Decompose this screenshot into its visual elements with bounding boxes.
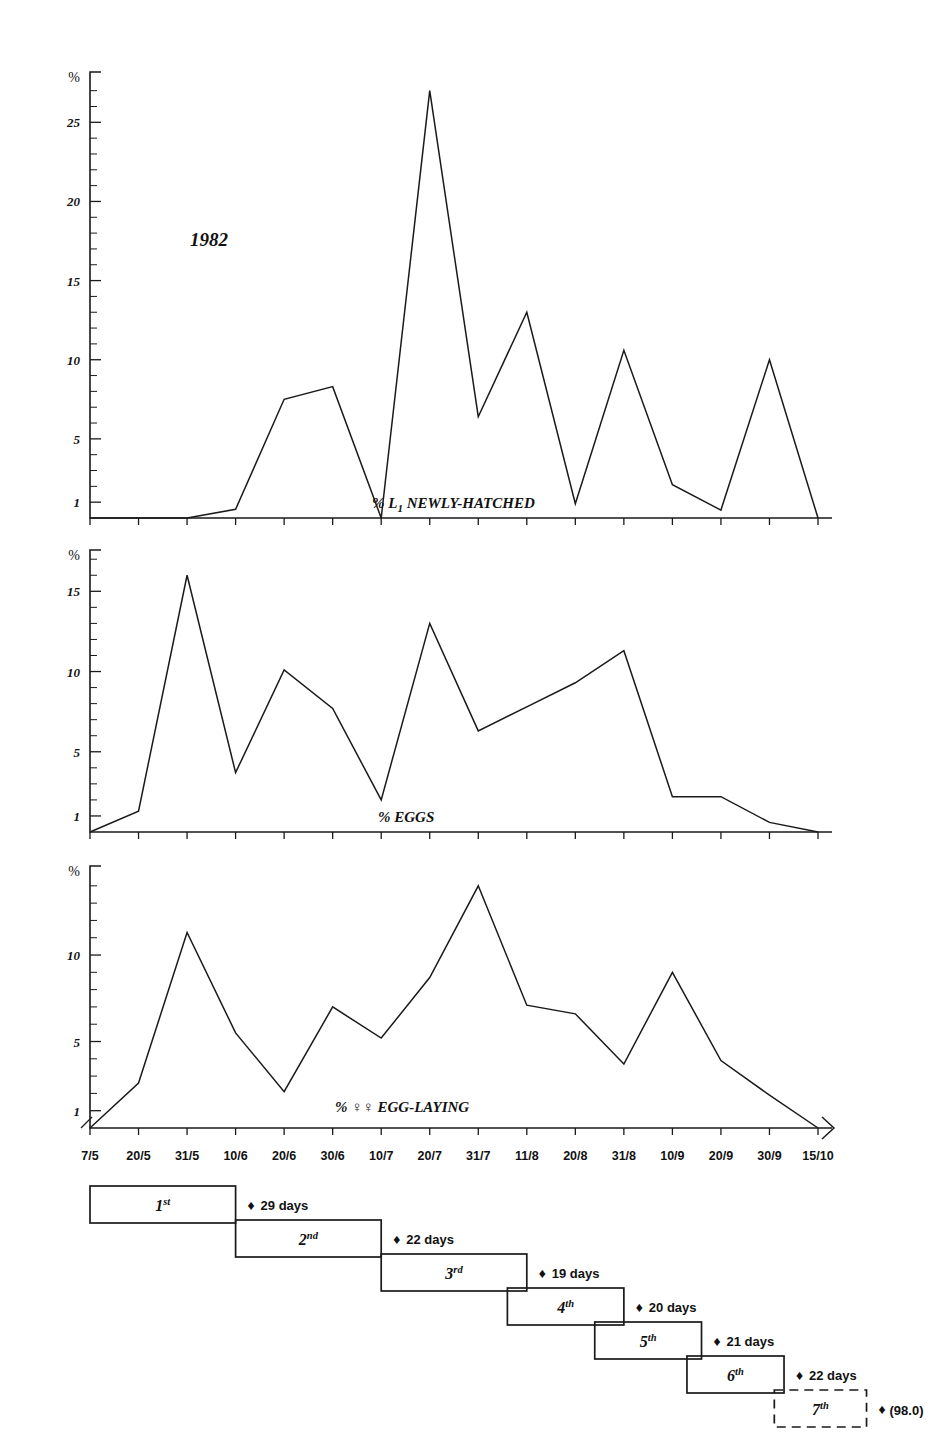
axis-lines: [90, 72, 832, 518]
duration-label: 20 days: [649, 1300, 697, 1315]
generation-ordinal: 5: [640, 1333, 648, 1350]
panel-caption: % L1 NEWLY-HATCHED: [372, 495, 535, 514]
y-tick-label: 5: [74, 432, 81, 447]
panel-caption: % EGGS: [378, 809, 434, 825]
generation-label: 7th: [812, 1400, 829, 1418]
figure-container: 1510152025%% L1 NEWLY-HATCHED151015%% EG…: [0, 0, 929, 1449]
caption-percent: %: [378, 809, 394, 825]
y-tick-label: 15: [67, 274, 81, 289]
duration-label: 21 days: [727, 1334, 775, 1349]
series-line: [90, 886, 818, 1128]
generation-suffix: th: [565, 1298, 574, 1309]
y-tick-label: 10: [67, 665, 81, 680]
duration-marker-icon: ♦: [539, 1266, 546, 1281]
caption-percent: %: [335, 1099, 351, 1115]
panel-2: 151015%% EGGS: [67, 548, 832, 839]
x-tick-label: 30/6: [320, 1149, 344, 1163]
y-axis-unit: %: [68, 548, 80, 563]
caption-percent: %: [372, 495, 388, 511]
y-axis-unit: %: [68, 864, 80, 879]
y-tick-label: 20: [66, 194, 81, 209]
caption-main: L: [387, 495, 397, 511]
generation-ordinal: 1: [155, 1197, 163, 1214]
panel-1: 1510152025%% L1 NEWLY-HATCHED: [66, 70, 832, 525]
duration-marker-icon: ♦: [636, 1300, 643, 1315]
x-tick-label: 10/6: [223, 1149, 247, 1163]
y-tick-label: 15: [67, 584, 81, 599]
generation-ordinal: 3: [444, 1265, 453, 1282]
x-tick-label: 10/9: [660, 1149, 684, 1163]
y-tick-label: 5: [74, 1035, 81, 1050]
generation-label: 5th: [640, 1332, 657, 1350]
note-marker-icon: ♦: [879, 1402, 886, 1417]
generation-suffix: th: [735, 1366, 744, 1377]
generation-suffix: th: [648, 1332, 657, 1343]
series-line: [90, 575, 818, 832]
generation-diagram: 1st♦29 days2nd♦22 days3rd♦19 days4th♦20 …: [90, 1186, 924, 1427]
x-tick-label: 31/5: [175, 1149, 199, 1163]
x-tick-label: 20/8: [563, 1149, 587, 1163]
generation-suffix: nd: [307, 1230, 319, 1241]
y-tick-label: 5: [74, 745, 81, 760]
y-tick-label: 10: [67, 948, 81, 963]
note-label: (98.0): [890, 1403, 924, 1418]
y-tick-label: 10: [67, 353, 81, 368]
duration-marker-icon: ♦: [796, 1368, 803, 1383]
caption-main: EGGS: [393, 809, 434, 825]
generation-suffix: rd: [453, 1264, 463, 1275]
series-line: [90, 91, 818, 518]
generation-ordinal: 6: [727, 1367, 735, 1384]
x-tick-label: 20/6: [272, 1149, 296, 1163]
generation-label: 6th: [727, 1366, 744, 1384]
x-tick-label: 7/5: [81, 1149, 98, 1163]
x-tick-label: 11/8: [515, 1149, 539, 1163]
panel-3: 1510%% ♀♀ EGG-LAYING: [67, 864, 832, 1135]
x-tick-label: 31/7: [466, 1149, 490, 1163]
x-axis-labels: 7/520/531/510/620/630/610/720/731/711/82…: [81, 1149, 833, 1163]
year-annotation: 1982: [190, 229, 229, 250]
y-axis-unit: %: [68, 70, 80, 85]
panel-caption: % ♀♀ EGG-LAYING: [335, 1099, 469, 1115]
generation-label: 3rd: [444, 1264, 463, 1282]
caption-rest: EGG-LAYING: [374, 1099, 470, 1115]
x-tick-label: 10/7: [369, 1149, 393, 1163]
generation-label: 1st: [155, 1196, 171, 1214]
generation-ordinal: 2: [298, 1231, 307, 1248]
generation-suffix: st: [162, 1196, 171, 1207]
x-tick-label: 20/9: [709, 1149, 733, 1163]
generation-label: 4th: [556, 1298, 574, 1316]
y-tick-label: 1: [74, 1104, 81, 1119]
duration-label: 22 days: [809, 1368, 857, 1383]
duration-marker-icon: ♦: [248, 1198, 255, 1213]
duration-marker-icon: ♦: [393, 1232, 400, 1247]
caption-rest: NEWLY-HATCHED: [403, 495, 535, 511]
y-tick-label: 1: [74, 809, 81, 824]
caption-main: ♀♀: [351, 1099, 374, 1115]
duration-marker-icon: ♦: [714, 1334, 721, 1349]
x-tick-label: 31/8: [612, 1149, 636, 1163]
x-tick-label: 20/5: [126, 1149, 150, 1163]
duration-label: 19 days: [552, 1266, 600, 1281]
duration-label: 29 days: [261, 1198, 309, 1213]
generation-label: 2nd: [298, 1230, 319, 1248]
y-tick-label: 1: [74, 495, 81, 510]
x-tick-label: 15/10: [802, 1149, 833, 1163]
generation-suffix: th: [820, 1400, 829, 1411]
axis-lines: [90, 866, 832, 1128]
duration-label: 22 days: [406, 1232, 454, 1247]
x-tick-label: 20/7: [418, 1149, 442, 1163]
figure-svg: 1510152025%% L1 NEWLY-HATCHED151015%% EG…: [0, 0, 929, 1449]
generation-ordinal: 4: [556, 1299, 565, 1316]
y-tick-label: 25: [66, 115, 81, 130]
x-tick-label: 30/9: [757, 1149, 781, 1163]
